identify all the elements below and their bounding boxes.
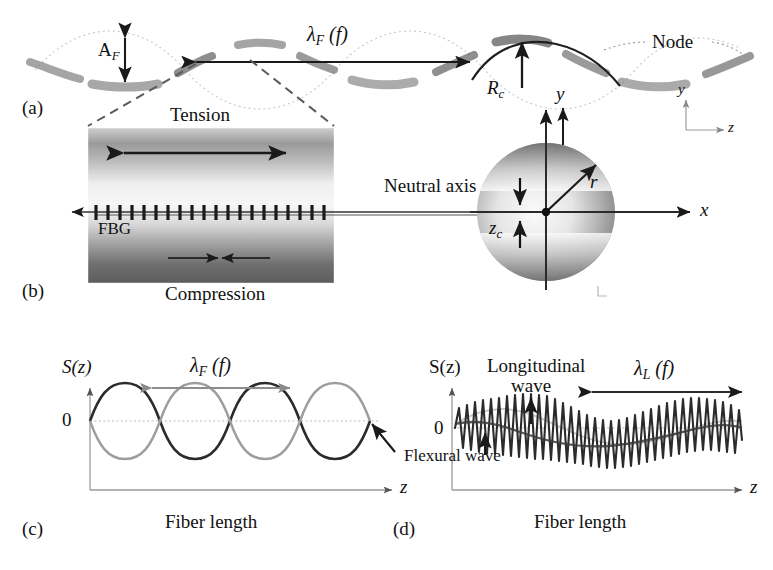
panel-c-tag: (c)	[22, 519, 43, 538]
fbg-label: FBG	[98, 220, 131, 237]
node-leader-left	[604, 42, 648, 50]
panel-b-group	[72, 110, 690, 296]
fiber-blur-segments	[30, 39, 750, 87]
panel-b-tag: (b)	[22, 281, 44, 300]
panel-c-caption: Fiber length	[165, 512, 257, 531]
wavelength-label-a: λF (f)	[307, 24, 348, 47]
panel-c-y-label: S(z)	[62, 357, 92, 376]
panel-c-x-label: z	[400, 477, 407, 496]
wavelength-label-d: λL (f)	[634, 358, 674, 381]
neutral-axis-label: Neutral axis	[384, 176, 476, 195]
panel-d-caption: Fiber length	[534, 512, 626, 531]
panel-d-y-label: S(z)	[429, 357, 461, 376]
amplitude-label: AF	[98, 40, 120, 63]
panel-c-zero-label: 0	[62, 410, 72, 429]
panel-d-x-label: z	[750, 477, 757, 496]
axis-indicator-z-label: z	[728, 120, 734, 135]
cross-section-center-dot	[542, 208, 550, 216]
compression-label: Compression	[165, 284, 265, 303]
panel-d-tag: (d)	[393, 519, 415, 538]
longitudinal-wave-label-line1: Longitudinal	[487, 356, 585, 375]
panel-a-tag: (a)	[22, 98, 43, 117]
panel-c-group	[90, 383, 395, 490]
zc-offset-label: zc	[489, 218, 502, 241]
tension-label: Tension	[170, 105, 230, 124]
flexural-wave-leader	[372, 424, 395, 452]
zoom-connector-right	[250, 60, 334, 126]
radius-of-curvature-label: Rc	[487, 78, 504, 101]
wavelength-label-c: λF (f)	[190, 355, 231, 378]
figure-root: (a) AF λF (f) Rc y Node y z (b) Tension …	[0, 0, 773, 570]
panel-a-axis-indicator	[686, 100, 724, 130]
flexural-wave-annotation: Flexural wave	[404, 447, 501, 464]
axis-indicator-y-label: y	[678, 82, 685, 97]
cross-section-x-label: x	[700, 200, 708, 219]
panel-a-y-label: y	[556, 84, 564, 103]
figure-canvas	[0, 0, 773, 570]
radius-label: r	[590, 172, 597, 191]
longitudinal-wave-label-line2: wave	[511, 376, 551, 395]
fiber-body	[88, 128, 334, 283]
node-label: Node	[652, 32, 693, 51]
panel-d-zero-label: 0	[434, 418, 444, 437]
panel-d-group	[452, 388, 742, 490]
cross-section-corner-tick	[598, 286, 607, 296]
